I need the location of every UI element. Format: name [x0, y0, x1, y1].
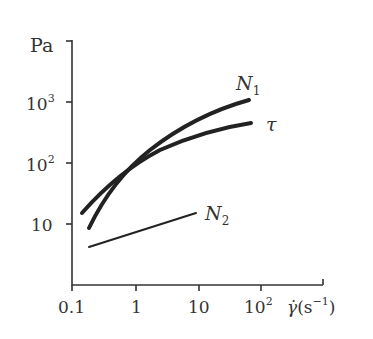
x-tick-label-10: 10 — [188, 297, 210, 317]
n2-label: N2 — [204, 202, 229, 228]
n2-line — [89, 213, 196, 247]
tau-label: τ — [266, 113, 277, 135]
y-unit-label: Pa — [30, 34, 53, 56]
axes — [66, 40, 323, 291]
n1-label: N1 — [235, 72, 260, 98]
x-tick-label-0.1: 0.1 — [58, 297, 85, 317]
x-axis-title: γ̇(s−1) — [287, 295, 335, 317]
y-tick-label-1000: 103 — [26, 92, 55, 114]
y-tick-label-10: 10 — [31, 215, 53, 235]
rheology-chart: Pa 103 102 10 0.1 1 10 102 γ̇(s−1) N1 τ … — [0, 0, 373, 339]
n1-curve — [89, 100, 249, 228]
x-tick-label-100: 102 — [244, 295, 273, 317]
x-tick-label-1: 1 — [131, 297, 142, 317]
y-tick-label-100: 102 — [26, 153, 55, 175]
